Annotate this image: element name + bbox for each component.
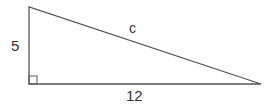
horizontal-leg-label: 12 <box>126 88 143 103</box>
right-angle-marker <box>29 76 37 84</box>
vertical-leg-label: 5 <box>11 38 19 53</box>
triangle-shape <box>29 7 261 84</box>
hypotenuse-label: c <box>129 21 136 35</box>
